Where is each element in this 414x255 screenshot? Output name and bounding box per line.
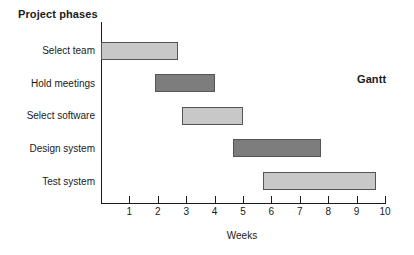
x-tick-mark xyxy=(158,196,159,204)
category-label: Hold meetings xyxy=(0,78,95,89)
x-tick-label: 8 xyxy=(316,206,340,217)
x-tick-label: 5 xyxy=(231,206,255,217)
category-label: Select software xyxy=(0,110,95,121)
category-label: Test system xyxy=(0,176,95,187)
x-tick-mark xyxy=(129,196,130,204)
x-tick-mark xyxy=(186,196,187,204)
gantt-bar xyxy=(155,74,215,92)
category-label: Select team xyxy=(0,45,95,56)
x-tick-mark xyxy=(215,196,216,204)
plot-area: 12345678910 Select teamHold meetingsSele… xyxy=(0,0,414,255)
x-tick-label: 4 xyxy=(203,206,227,217)
x-tick-mark xyxy=(300,196,301,204)
x-tick-mark xyxy=(385,196,386,204)
x-tick-label: 9 xyxy=(345,206,369,217)
x-axis-title: Weeks xyxy=(0,230,414,241)
x-axis-title-text: Weeks xyxy=(227,230,257,241)
x-tick-label: 3 xyxy=(174,206,198,217)
category-label: Design system xyxy=(0,143,95,154)
gantt-chart-figure: Project phases Gantt 12345678910 Select … xyxy=(0,0,414,255)
x-tick-label: 10 xyxy=(373,206,397,217)
gantt-bar xyxy=(182,107,243,125)
gantt-bar xyxy=(233,139,321,157)
x-tick-label: 2 xyxy=(146,206,170,217)
gantt-bar xyxy=(263,172,377,190)
x-tick-label: 1 xyxy=(117,206,141,217)
x-tick-mark xyxy=(243,196,244,204)
x-tick-label: 6 xyxy=(259,206,283,217)
x-tick-mark xyxy=(357,196,358,204)
x-tick-mark xyxy=(328,196,329,204)
x-tick-mark xyxy=(271,196,272,204)
gantt-bar xyxy=(101,42,178,60)
x-tick-label: 7 xyxy=(288,206,312,217)
